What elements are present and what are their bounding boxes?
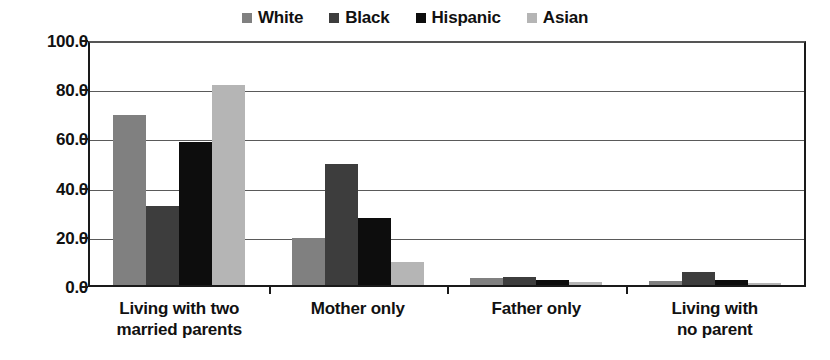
y-axis-tick-mark xyxy=(81,286,88,288)
x-axis-category-label-line: Mother only xyxy=(269,298,448,319)
bar xyxy=(569,282,602,285)
y-axis-tick-mark xyxy=(81,188,88,190)
x-axis-tick-mark xyxy=(626,287,628,294)
y-axis-tick-mark xyxy=(81,138,88,140)
x-axis-category-label-line: Living with two xyxy=(90,298,269,319)
legend-swatch-icon xyxy=(527,13,537,23)
legend-swatch-icon xyxy=(329,13,339,23)
y-axis-tick-label: 0.0 xyxy=(10,279,88,296)
legend-item-hispanic: Hispanic xyxy=(416,9,501,26)
y-axis: 0.020.040.060.080.0100.0 xyxy=(0,41,88,287)
legend-label: Hispanic xyxy=(432,9,501,26)
x-axis-labels: Living with twomarried parentsMother onl… xyxy=(90,298,804,356)
bar-group xyxy=(626,41,805,285)
bar xyxy=(536,280,569,285)
legend-swatch-icon xyxy=(416,13,426,23)
grouped-bar-chart: WhiteBlackHispanicAsian 0.020.040.060.08… xyxy=(0,0,830,360)
bar xyxy=(113,115,146,285)
y-axis-tick-mark xyxy=(81,40,88,42)
x-axis-tick-mark xyxy=(269,287,271,294)
x-axis-category-label-line: no parent xyxy=(626,319,805,340)
bar xyxy=(146,206,179,285)
x-axis-category-label-line: married parents xyxy=(90,319,269,340)
y-axis-tick-label: 100.0 xyxy=(10,33,88,50)
legend-item-white: White xyxy=(242,9,303,26)
bar xyxy=(503,277,536,285)
chart-legend: WhiteBlackHispanicAsian xyxy=(0,9,830,26)
y-axis-tick-label: 20.0 xyxy=(10,230,88,247)
x-axis-category-label: Mother only xyxy=(269,298,448,319)
bar-group xyxy=(90,41,269,285)
bar xyxy=(292,238,325,285)
x-axis-category-label-line: Father only xyxy=(447,298,626,319)
bar xyxy=(748,283,781,285)
bar xyxy=(212,85,245,285)
bar-group xyxy=(447,41,626,285)
legend-label: Asian xyxy=(543,9,588,26)
bar xyxy=(391,262,424,285)
legend-label: Black xyxy=(345,9,389,26)
y-axis-tick-mark xyxy=(81,237,88,239)
bar xyxy=(325,164,358,285)
y-axis-tick-label: 60.0 xyxy=(10,131,88,148)
x-axis-category-label-line: Living with xyxy=(626,298,805,319)
x-axis-category-label: Father only xyxy=(447,298,626,319)
bar xyxy=(470,278,503,285)
x-axis-category-label: Living with twomarried parents xyxy=(90,298,269,340)
legend-item-asian: Asian xyxy=(527,9,588,26)
bar xyxy=(358,218,391,285)
legend-item-black: Black xyxy=(329,9,389,26)
x-axis-category-label: Living withno parent xyxy=(626,298,805,340)
x-axis-tick-mark xyxy=(447,287,449,294)
bar xyxy=(715,280,748,285)
bars-layer xyxy=(90,41,804,285)
y-axis-tick-mark xyxy=(81,89,88,91)
bar-group xyxy=(269,41,448,285)
y-axis-tick-label: 40.0 xyxy=(10,181,88,198)
bar xyxy=(649,281,682,285)
bar xyxy=(682,272,715,285)
bar xyxy=(179,142,212,285)
y-axis-tick-label: 80.0 xyxy=(10,82,88,99)
legend-label: White xyxy=(258,9,303,26)
legend-swatch-icon xyxy=(242,13,252,23)
